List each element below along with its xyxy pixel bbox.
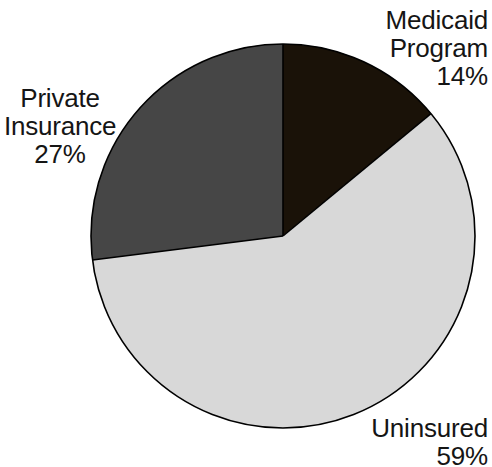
pie-label-medicaid-line1: Medicaid	[386, 6, 488, 34]
pie-label-uninsured-line1: Uninsured	[371, 414, 488, 442]
pie-slice-private-insurance[interactable]	[91, 44, 283, 260]
pie-label-uninsured: Uninsured 59%	[371, 414, 488, 467]
pie-label-medicaid-line2: Program	[386, 34, 488, 62]
pie-label-private-line2: Insurance	[4, 112, 116, 140]
pie-chart-figure: Medicaid Program 14% Private Insurance 2…	[0, 0, 492, 467]
pie-label-private-insurance: Private Insurance 27%	[4, 84, 116, 168]
pie-label-private-line1: Private	[4, 84, 116, 112]
pie-label-medicaid-program: Medicaid Program 14%	[386, 6, 488, 90]
pie-label-private-value: 27%	[4, 140, 116, 168]
pie-label-medicaid-value: 14%	[386, 62, 488, 90]
pie-label-uninsured-value: 59%	[371, 442, 488, 467]
